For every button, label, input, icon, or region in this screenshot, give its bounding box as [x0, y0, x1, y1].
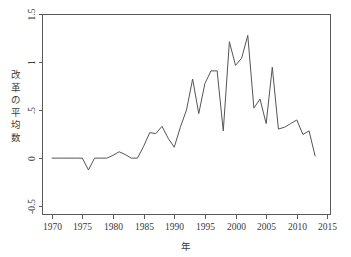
x-tick-label-2000: 2000: [227, 222, 246, 232]
x-tick-label-1985: 1985: [135, 222, 154, 232]
x-axis-ticks: [53, 215, 328, 219]
x-tick-label-1970: 1970: [43, 222, 62, 232]
y-tick-label-1.5: 1.5: [27, 8, 37, 20]
y-tick-label-1: 1: [27, 60, 37, 65]
y-axis-tick-labels: 1.5 1 .5 0 -0.5: [27, 8, 37, 214]
x-axis-title: 年: [181, 241, 191, 252]
x-axis-tick-labels: 1970197519801985199019952000200520102015: [43, 222, 337, 232]
data-series-line: [52, 35, 315, 170]
x-tick-label-2010: 2010: [288, 222, 307, 232]
x-tick-label-2005: 2005: [257, 222, 276, 232]
x-tick-label-1990: 1990: [165, 222, 184, 232]
x-tick-label-1995: 1995: [196, 222, 215, 232]
x-tick-label-1980: 1980: [104, 222, 123, 232]
x-tick-label-1975: 1975: [73, 222, 92, 232]
plot-frame: [43, 15, 331, 215]
y-axis-title-char-1: 革: [11, 82, 21, 93]
y-axis-title-char-3: 平: [11, 107, 21, 118]
x-tick-label-2015: 2015: [318, 222, 337, 232]
y-tick-label--0.5: -0.5: [27, 199, 37, 214]
y-axis-title-char-0: 改: [11, 69, 21, 80]
y-axis-title: 改革の平均数: [11, 69, 21, 143]
y-axis-title-char-5: 数: [11, 132, 21, 143]
y-tick-label-0.5: .5: [27, 107, 37, 114]
chart-figure: 1.5 1 .5 0 -0.5 197019751980198519901995…: [0, 0, 351, 257]
line-chart: 1.5 1 .5 0 -0.5 197019751980198519901995…: [0, 0, 351, 257]
y-axis-title-char-2: の: [11, 94, 21, 105]
y-axis-title-char-4: 均: [11, 119, 21, 130]
y-tick-label-0: 0: [27, 156, 37, 161]
y-axis-ticks: [39, 15, 43, 207]
